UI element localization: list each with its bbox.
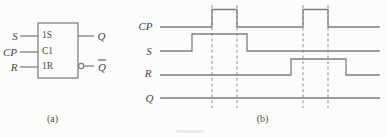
scan-smudge: [176, 130, 204, 133]
pin-label-c1: C1: [42, 47, 53, 57]
inversion-bubble: [79, 63, 84, 68]
waveform-s: [160, 34, 380, 51]
waveform-r: [160, 59, 380, 75]
qbar-overline-text: Q: [98, 59, 106, 72]
pin-label-1r: 1R: [42, 62, 53, 72]
input-label-s: S: [12, 31, 18, 42]
timing-label-s: S: [146, 45, 152, 56]
output-label-q: Q: [98, 31, 106, 42]
timing-label-r: R: [145, 68, 152, 79]
input-label-r: R: [11, 62, 18, 73]
output-label-qbar: Q: [98, 59, 106, 72]
input-label-cp: CP: [3, 47, 17, 58]
timing-label-q: Q: [146, 92, 154, 103]
caption-a: (a): [47, 114, 58, 124]
waveform-cp: [160, 10, 380, 28]
timing-label-cp: CP: [138, 20, 152, 31]
sr-flipflop-figure: S CP R 1S C1 1R Q Q (a) CP S R Q (b): [0, 0, 387, 137]
pin-label-1s: 1S: [42, 31, 52, 41]
caption-b: (b): [257, 114, 269, 124]
